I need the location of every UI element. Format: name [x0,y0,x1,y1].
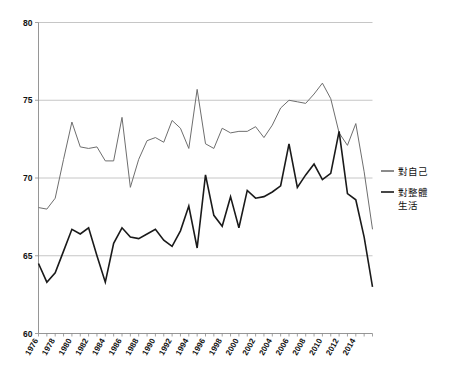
x-tick-label-2008: 2008 [291,337,308,357]
x-tick-label-2000: 2000 [224,337,241,357]
x-tick-label-1990: 1990 [140,337,157,357]
x-tick-label-1992: 1992 [157,337,174,357]
y-tick-label-60: 60 [23,329,33,339]
x-tick-label-2014: 2014 [341,337,358,357]
legend-label-2a: 對整體 [398,187,428,198]
series-line-2 [39,131,373,287]
y-tick-label-75: 75 [23,95,33,105]
x-tick-label-2004: 2004 [257,337,274,357]
x-tick-label-1994: 1994 [174,337,191,357]
x-tick-label-2006: 2006 [274,337,291,357]
x-tick-label-1982: 1982 [74,337,91,357]
chart-canvas: 6065707580197619781980198219841986198819… [0,0,450,375]
x-tick-label-2012: 2012 [324,337,341,357]
x-tick-label-1984: 1984 [90,337,107,357]
x-tick-label-1996: 1996 [191,337,208,357]
x-tick-label-2010: 2010 [307,337,324,357]
x-tick-label-2002: 2002 [241,337,258,357]
x-tick-label-1978: 1978 [40,337,57,357]
x-tick-label-1986: 1986 [107,337,124,357]
x-tick-label-1988: 1988 [124,337,141,357]
x-tick-label-1976: 1976 [24,337,41,357]
y-tick-label-80: 80 [23,18,33,28]
legend-label-2b: 生活 [398,200,418,211]
y-tick-label-70: 70 [23,173,33,183]
series-line-1 [39,83,373,229]
x-tick-label-1980: 1980 [57,337,74,357]
legend-label-1: 對自己 [398,166,428,177]
line-chart: 6065707580197619781980198219841986198819… [0,0,450,375]
y-tick-label-65: 65 [23,251,33,261]
x-tick-label-1998: 1998 [207,337,224,357]
